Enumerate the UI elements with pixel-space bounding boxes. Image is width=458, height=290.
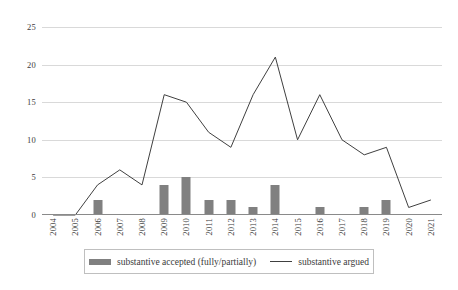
x-axis-tick-label-2015: 2015: [294, 218, 303, 236]
x-axis-tick-label-2005: 2005: [71, 218, 80, 236]
legend-item-label: substantive accepted (fully/partially): [117, 257, 256, 267]
x-axis-tick-label-2016: 2016: [316, 218, 325, 236]
y-axis-tick-label: 5: [6, 173, 36, 182]
y-axis-tick-label: 15: [6, 98, 36, 107]
chart-legend: substantive accepted (fully/partially) s…: [84, 249, 374, 274]
x-axis-tick-label-2007: 2007: [116, 218, 125, 236]
x-axis-tick-label-2012: 2012: [227, 218, 236, 236]
x-axis-tick-label-2009: 2009: [160, 218, 169, 236]
x-axis-tick-label-2004: 2004: [49, 218, 58, 236]
y-axis-tick-label: 20: [6, 61, 36, 70]
x-axis-tick-label-2008: 2008: [138, 218, 147, 236]
x-axis-tick-label-2010: 2010: [182, 218, 191, 236]
legend-item-label: substantive argued: [298, 257, 369, 267]
legend-item-substantive-argued[interactable]: substantive argued: [270, 257, 369, 267]
y-axis-tick-label: 0: [6, 211, 36, 220]
line-swatch-icon: [270, 261, 292, 262]
x-axis-tick-label-2011: 2011: [205, 218, 214, 236]
x-axis-tick-label-2019: 2019: [382, 218, 391, 236]
x-axis-tick-label-2017: 2017: [338, 218, 347, 236]
x-axis-tick-label-2021: 2021: [427, 218, 436, 236]
line-path: [53, 57, 431, 215]
y-axis-tick-label: 25: [6, 23, 36, 32]
x-axis-baseline: [42, 214, 442, 215]
y-axis-tick-label: 10: [6, 136, 36, 145]
plot-area: [42, 27, 442, 215]
x-axis-tick-label-2013: 2013: [249, 218, 258, 236]
bar-swatch-icon: [89, 259, 111, 265]
x-axis-tick-label-2014: 2014: [271, 218, 280, 236]
legend-item-substantive-accepted[interactable]: substantive accepted (fully/partially): [89, 257, 256, 267]
chart-container: 0510152025 20042005200620072008200920102…: [0, 0, 458, 290]
line-series-substantive-argued: [42, 27, 442, 215]
x-axis-tick-label-2006: 2006: [94, 218, 103, 236]
x-axis-tick-label-2020: 2020: [405, 218, 414, 236]
x-axis-tick-label-2018: 2018: [360, 218, 369, 236]
